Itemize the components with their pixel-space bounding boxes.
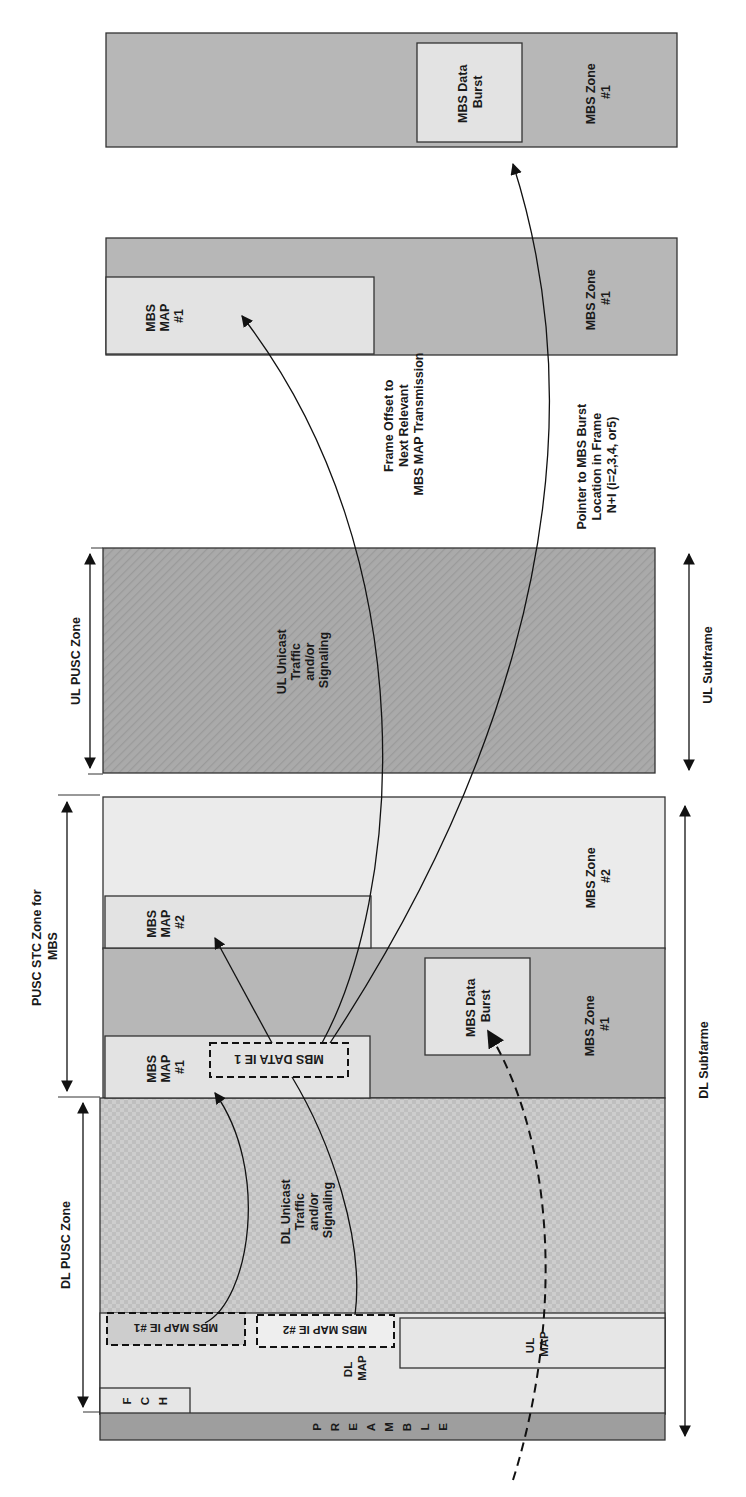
mbs-map-ie-2-label: MBS MAP IE #2 [283, 1324, 367, 1336]
svg-text:F: F [121, 1397, 133, 1404]
burst-pointer-annotation: Pointer to MBS Burst Location in Frame N… [575, 400, 619, 529]
svg-text:H: H [157, 1397, 169, 1405]
fch-label: F C H [121, 1397, 169, 1405]
svg-text:M: M [383, 1422, 395, 1432]
mbs-map-ie-1-label: MBS MAP IE #1 [133, 1322, 218, 1334]
svg-text:E: E [437, 1423, 449, 1431]
dl-subframe-label: DL Subfarme [697, 1021, 711, 1099]
ul-pusc-zone-label: UL PUSC Zone [69, 617, 83, 705]
svg-text:A: A [365, 1423, 377, 1431]
svg-text:R: R [329, 1422, 341, 1431]
frame-offset-annotation: Frame Offset to Next Relevant MBS MAP Tr… [382, 353, 426, 496]
mbs-data-ie-1-label: MBS DATA IE 1 [234, 1052, 323, 1066]
svg-text:C: C [139, 1397, 151, 1405]
svg-text:B: B [401, 1423, 413, 1431]
svg-text:E: E [347, 1423, 359, 1431]
svg-text:L: L [419, 1423, 431, 1430]
mbs-frame-structure-diagram: MBS Data Burst MBS Zone #1 MBS MAP #1 MB… [0, 0, 746, 1497]
dl-pusc-zone-label: DL PUSC Zone [59, 1201, 73, 1289]
next-map-frame: MBS MAP #1 MBS Zone #1 [106, 238, 677, 355]
ul-subframe-label: UL Subframe [701, 626, 715, 704]
ul-unicast-block [103, 548, 655, 773]
svg-text:P: P [311, 1423, 323, 1431]
pusc-stc-zone-label: PUSC STC Zone for MBS [30, 886, 60, 1006]
data-burst-frame: MBS Data Burst MBS Zone #1 [106, 33, 677, 147]
ul-subframe: UL Unicast Traffic and/or Signaling UL P… [69, 548, 715, 774]
